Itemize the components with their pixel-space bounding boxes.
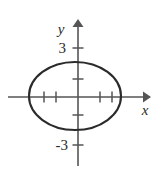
y-axis-label: y [56,21,65,37]
y-axis-group [73,19,84,166]
x-axis-label: x [141,102,149,118]
ellipse-curve [29,62,121,130]
graph-figure: y x 3 -3 [0,0,162,171]
x-axis-arrowhead-icon [143,92,151,103]
y-axis-arrowhead-icon [73,19,84,27]
coordinate-plane-svg: y x 3 -3 [0,0,162,171]
y-tick-label-positive: 3 [59,40,67,56]
y-tick-label-negative: -3 [56,137,69,153]
